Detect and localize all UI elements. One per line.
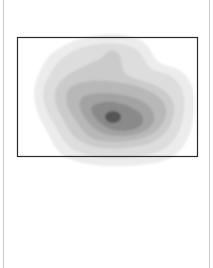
contour-plot-figure [0,0,213,268]
contour-plot [0,0,213,268]
contour-levels [34,34,194,166]
contour-peak [105,111,121,123]
